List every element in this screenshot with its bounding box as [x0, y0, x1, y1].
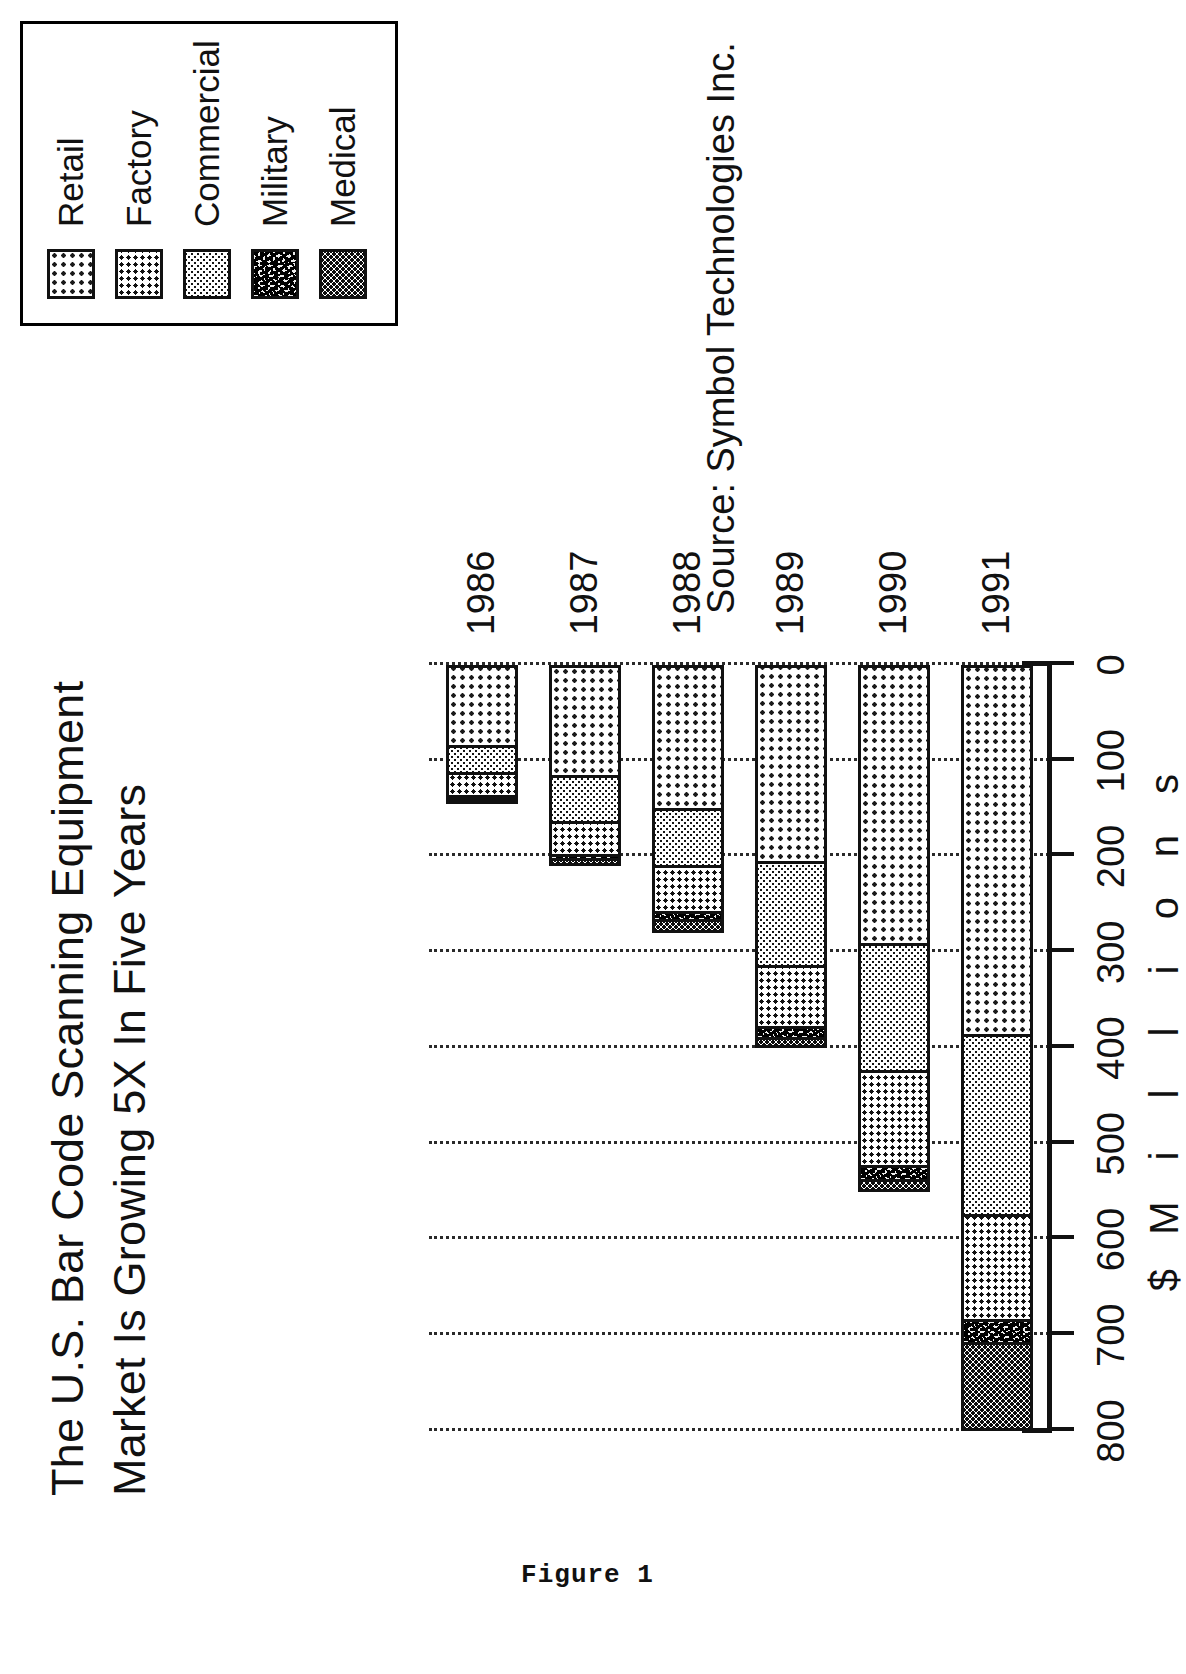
axis-title-letter: i	[1142, 966, 1186, 975]
axis-tick-label: 300	[1090, 921, 1133, 984]
bar-segment-commercial	[758, 861, 824, 965]
bar-segment-retail	[964, 668, 1030, 1034]
legend-label: Factory	[119, 110, 159, 227]
legend-item-factory: Factory	[113, 110, 165, 299]
bar-segment-military	[655, 911, 721, 918]
gridline	[429, 758, 1049, 761]
axis-tick-label: 800	[1090, 1399, 1133, 1462]
bar-1987	[549, 665, 621, 866]
axis-title-letter: n	[1142, 835, 1186, 857]
axis-title-letter: i	[1142, 1152, 1186, 1161]
bar-segment-commercial	[964, 1034, 1030, 1215]
bar-segment-medical	[655, 919, 721, 930]
value-axis-title: $Millions	[1142, 660, 1186, 1430]
source-note: Source: Symbol Technologies Inc.	[700, 42, 743, 614]
bar-segment-military	[449, 795, 515, 798]
bar-segment-commercial	[449, 745, 515, 772]
axis-title-letter: l	[1142, 1028, 1186, 1037]
figure-caption: Figure 1	[0, 1560, 1175, 1590]
axis-tick-label: 0	[1090, 654, 1133, 675]
bar-segment-retail	[655, 668, 721, 808]
gridline	[429, 1141, 1049, 1144]
bar-1988	[652, 665, 724, 933]
legend-label: Military	[255, 116, 295, 227]
bar-segment-military	[861, 1165, 927, 1179]
gridline	[429, 854, 1049, 857]
bar-segment-factory	[449, 772, 515, 795]
axis-tick-label: 600	[1090, 1208, 1133, 1271]
axis-tick-label: 100	[1090, 729, 1133, 792]
category-label-1987: 1987	[563, 551, 606, 636]
legend-label: Retail	[51, 138, 91, 227]
legend-swatch-icon	[47, 249, 95, 299]
legend-swatch-icon	[183, 249, 231, 299]
bar-1990	[858, 665, 930, 1192]
legend-swatch-icon	[251, 249, 299, 299]
page-title-line2: Market Is Growing 5X In Five Years	[104, 784, 156, 1496]
category-label-1990: 1990	[872, 551, 915, 636]
bar-segment-retail	[861, 668, 927, 943]
bar-segment-factory	[552, 821, 618, 854]
legend-item-retail: Retail	[45, 138, 97, 299]
legend-item-commercial: Commercial	[181, 40, 233, 299]
gridline	[429, 1332, 1049, 1335]
axis-tick-label: 500	[1090, 1112, 1133, 1175]
axis-tick-label: 700	[1090, 1304, 1133, 1367]
bar-segment-medical	[861, 1179, 927, 1188]
bar-segment-medical	[552, 858, 618, 864]
chart-legend: RetailFactoryCommercialMilitaryMedical	[20, 21, 398, 326]
value-axis-line	[1047, 661, 1052, 1433]
bar-1986	[446, 665, 518, 804]
bar-segment-military	[964, 1319, 1030, 1343]
legend-swatch-icon	[115, 249, 163, 299]
axis-tick-label: 200	[1090, 825, 1133, 888]
page-title-line1: The U.S. Bar Code Scanning Equipment	[42, 681, 94, 1496]
axis-title-letter: $	[1142, 1269, 1186, 1291]
bar-segment-commercial	[655, 808, 721, 864]
bar-segment-commercial	[861, 943, 927, 1071]
legend-label: Medical	[323, 106, 363, 227]
bar-segment-medical	[758, 1037, 824, 1045]
gridline	[429, 949, 1049, 952]
bar-1989	[755, 665, 827, 1048]
bar-segment-military	[758, 1026, 824, 1037]
category-label-1986: 1986	[460, 551, 503, 636]
bar-segment-retail	[552, 668, 618, 775]
bar-segment-medical	[449, 798, 515, 801]
gridline	[429, 1428, 1049, 1431]
category-label-1991: 1991	[975, 551, 1018, 636]
bar-segment-factory	[758, 965, 824, 1026]
gridline	[429, 1237, 1049, 1240]
bar-segment-commercial	[552, 775, 618, 821]
gridline	[429, 662, 1049, 665]
legend-label: Commercial	[187, 40, 227, 227]
axis-tick-label: 400	[1090, 1016, 1133, 1079]
bar-1991	[961, 665, 1033, 1431]
axis-title-letter: l	[1142, 1090, 1186, 1099]
bar-segment-retail	[758, 668, 824, 861]
plot-area: 0100200300400500600700800198619871988198…	[430, 665, 1048, 1431]
bar-segment-factory	[964, 1214, 1030, 1319]
bar-segment-factory	[655, 865, 721, 912]
category-label-1989: 1989	[769, 551, 812, 636]
axis-title-letter: o	[1142, 897, 1186, 919]
bar-segment-retail	[449, 668, 515, 745]
bar-segment-medical	[964, 1343, 1030, 1429]
legend-swatch-icon	[319, 249, 367, 299]
gridline	[429, 1045, 1049, 1048]
axis-title-letter: M	[1142, 1201, 1186, 1234]
legend-item-military: Military	[249, 116, 301, 299]
legend-item-medical: Medical	[317, 106, 369, 299]
bar-segment-factory	[861, 1070, 927, 1165]
axis-end-cap-right	[1022, 661, 1052, 666]
axis-end-cap-left	[1022, 1428, 1050, 1433]
bar-segment-military	[552, 854, 618, 858]
axis-title-letter: s	[1142, 774, 1186, 794]
